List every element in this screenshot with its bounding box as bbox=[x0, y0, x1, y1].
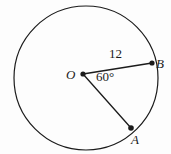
radius-length-label: 12 bbox=[109, 47, 122, 60]
point-label-o: O bbox=[66, 68, 75, 81]
point-label-a: A bbox=[131, 133, 139, 146]
point-marker-o bbox=[80, 71, 85, 76]
geometry-canvas bbox=[0, 0, 171, 154]
radius-segment-ob bbox=[83, 63, 152, 74]
geometry-figure: O B A 12 60° bbox=[0, 0, 171, 154]
point-label-b: B bbox=[156, 57, 164, 70]
point-marker-b bbox=[149, 60, 154, 65]
angle-measure-label: 60° bbox=[96, 70, 114, 83]
point-marker-a bbox=[128, 125, 134, 131]
